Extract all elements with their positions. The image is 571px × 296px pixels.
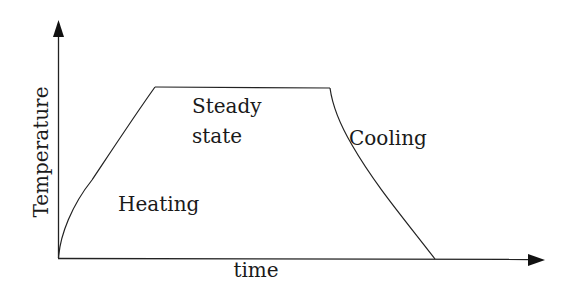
steady-state-line [155, 87, 330, 88]
y-axis-label: Temperature [29, 86, 53, 217]
heating-label: Heating [118, 192, 200, 216]
x-axis-arrow-icon [528, 254, 545, 266]
diagram-canvas: Temperature time Heating Steady state Co… [0, 0, 571, 296]
cooling-curve [330, 88, 435, 259]
steady-state-label-line2: state [192, 124, 242, 148]
y-axis-arrow-icon [53, 20, 64, 37]
x-axis-label: time [233, 258, 278, 282]
steady-state-label-line1: Steady [192, 94, 262, 118]
heating-curve [59, 87, 156, 258]
temperature-profile-diagram: Temperature time Heating Steady state Co… [0, 0, 571, 296]
cooling-label: Cooling [349, 126, 427, 150]
x-axis [58, 259, 530, 260]
